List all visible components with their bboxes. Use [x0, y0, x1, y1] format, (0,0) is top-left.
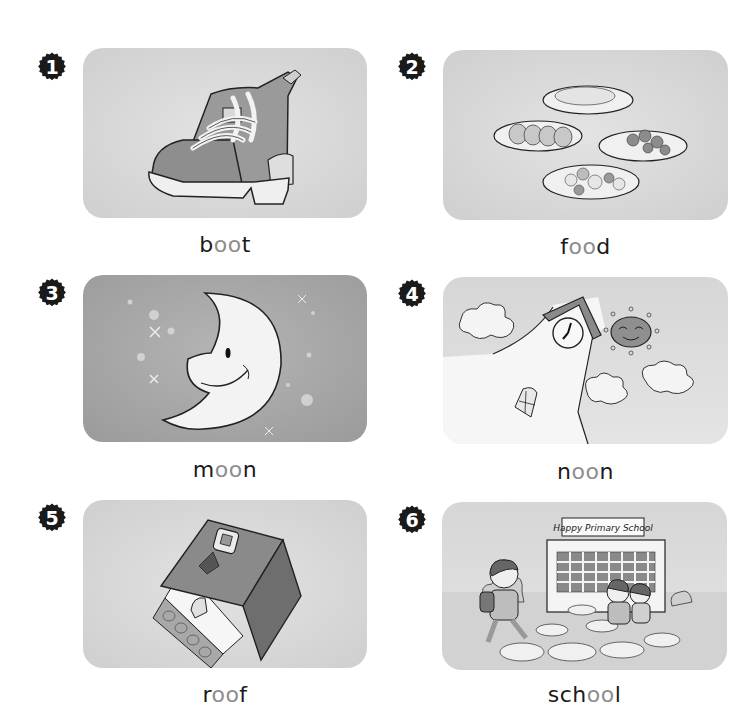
number-badge: 6: [397, 505, 427, 535]
number-badge: 3: [37, 278, 67, 308]
highlight-oo: oo: [211, 682, 239, 707]
highlight-oo: oo: [568, 234, 596, 259]
food-plates-illustration: [443, 50, 728, 220]
highlight-oo: oo: [215, 457, 243, 482]
word-label: school: [442, 682, 727, 707]
word-label: roof: [83, 682, 367, 707]
clock-tower-sun-illustration: [443, 277, 728, 444]
word-label: boot: [83, 232, 367, 257]
number-badge: 2: [397, 52, 427, 82]
highlight-oo: oo: [214, 232, 242, 257]
school-sign-text: Happy Primary School: [553, 523, 653, 533]
highlight-oo: oo: [587, 682, 615, 707]
number-badge: 5: [37, 503, 67, 533]
number-badge: 4: [397, 279, 427, 309]
word-label: food: [443, 234, 728, 259]
crescent-moon-illustration: [83, 275, 367, 442]
boot-illustration: [83, 48, 367, 218]
word-label: moon: [83, 457, 367, 482]
school-children-illustration: Happy Primary School: [442, 502, 727, 670]
highlight-oo: oo: [572, 459, 600, 484]
house-roof-illustration: [83, 500, 367, 668]
word-label: noon: [443, 459, 728, 484]
number-badge: 1: [37, 52, 67, 82]
